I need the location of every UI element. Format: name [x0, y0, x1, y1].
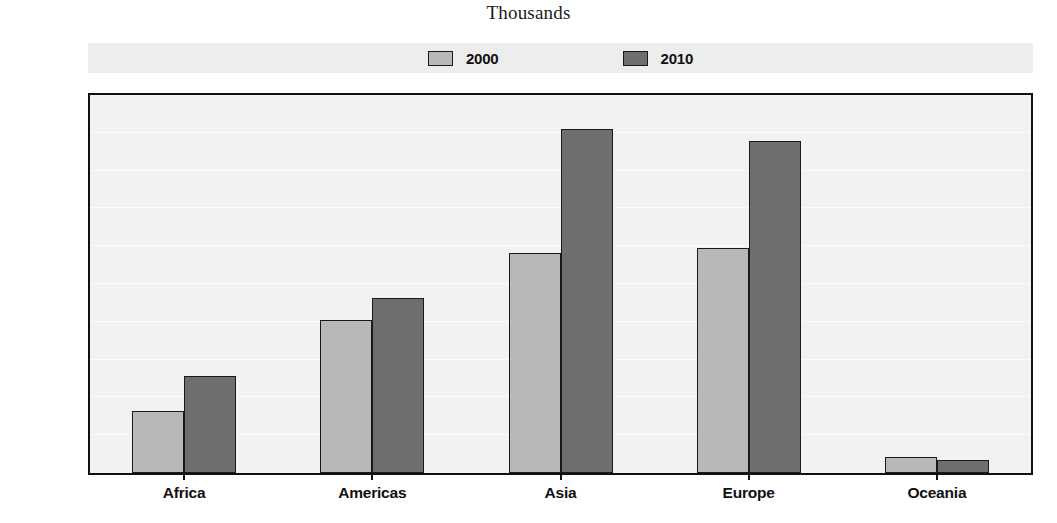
bar-asia-2000[interactable] — [509, 253, 561, 473]
x-tick-mark — [183, 473, 185, 480]
x-tick-mark — [748, 473, 750, 480]
legend-label-2010: 2010 — [661, 50, 694, 67]
x-tick-label-asia: Asia — [461, 484, 661, 502]
x-tick-mark — [936, 473, 938, 480]
x-tick-mark — [560, 473, 562, 480]
chart-legend: 2000 2010 — [88, 43, 1033, 73]
bar-africa-2000[interactable] — [132, 411, 184, 473]
bar-europe-2010[interactable] — [749, 141, 801, 473]
legend-item-2010[interactable]: 2010 — [623, 50, 694, 67]
x-tick-label-europe: Europe — [649, 484, 849, 502]
legend-item-2000[interactable]: 2000 — [428, 50, 499, 67]
bar-asia-2010[interactable] — [561, 129, 613, 473]
bar-africa-2010[interactable] — [184, 376, 236, 473]
chart-title: Thousands — [0, 2, 1057, 24]
plot-area — [88, 93, 1033, 475]
x-tick-label-oceania: Oceania — [837, 484, 1037, 502]
x-tick-label-africa: Africa — [84, 484, 284, 502]
legend-swatch-2010 — [623, 51, 648, 66]
legend-swatch-2000 — [428, 51, 453, 66]
bar-oceania-2000[interactable] — [885, 457, 937, 473]
bar-americas-2000[interactable] — [320, 320, 372, 473]
plot-inner — [90, 95, 1031, 473]
legend-label-2000: 2000 — [466, 50, 499, 67]
bar-europe-2000[interactable] — [697, 248, 749, 473]
x-tick-label-americas: Americas — [272, 484, 472, 502]
bar-americas-2010[interactable] — [372, 298, 424, 473]
bar-oceania-2010[interactable] — [937, 460, 989, 473]
x-tick-mark — [371, 473, 373, 480]
